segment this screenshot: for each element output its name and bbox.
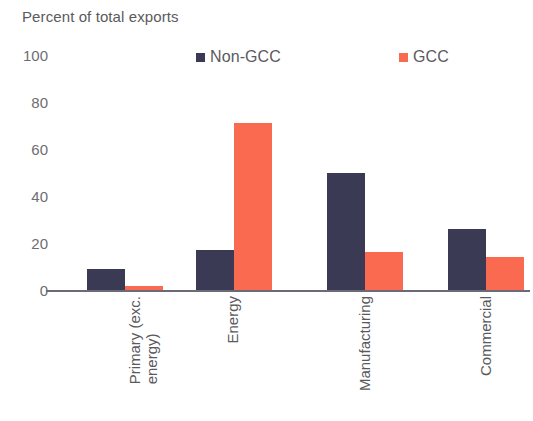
bar-group [87, 55, 163, 290]
plot-area [56, 55, 530, 290]
x-label-line: energy) [143, 296, 160, 384]
x-label-line: Manufacturing [356, 296, 373, 391]
bar-gcc-energy[interactable] [234, 123, 272, 290]
bar-group [196, 55, 272, 290]
y-tick-20: 20 [31, 235, 48, 252]
bar-group [327, 55, 403, 290]
y-tick-40: 40 [31, 188, 48, 205]
bar-gcc-manufacturing[interactable] [365, 252, 403, 290]
y-tick-100: 100 [23, 47, 48, 64]
bar-non-gcc-manufacturing[interactable] [327, 173, 365, 291]
bar-gcc-primary-exc-energy-[interactable] [125, 286, 163, 290]
x-axis-line [46, 290, 530, 292]
x-label-line: Primary (exc. [126, 296, 143, 384]
bar-non-gcc-energy[interactable] [196, 250, 234, 290]
bar-non-gcc-commercial[interactable] [448, 229, 486, 290]
y-tick-80: 80 [31, 94, 48, 111]
bar-group [448, 55, 524, 290]
x-label-energy: Energy [224, 296, 241, 344]
x-label-manufacturing: Manufacturing [356, 296, 373, 391]
y-axis: 100 80 60 40 20 0 [0, 55, 48, 290]
x-axis-labels: Primary (exc.energy)EnergyManufacturingC… [56, 296, 530, 421]
y-tick-60: 60 [31, 141, 48, 158]
chart-title: Percent of total exports [22, 8, 179, 25]
x-label-commercial: Commercial [477, 296, 494, 376]
x-label-line: Commercial [477, 296, 494, 376]
x-label-primary-exc-energy-: Primary (exc.energy) [126, 296, 160, 384]
bar-gcc-commercial[interactable] [486, 257, 524, 290]
x-label-line: Energy [224, 296, 241, 344]
bar-non-gcc-primary-exc-energy-[interactable] [87, 269, 125, 290]
bar-chart: Percent of total exports Non-GCC GCC 100… [0, 0, 533, 421]
